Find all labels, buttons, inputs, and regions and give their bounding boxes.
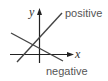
y-axis-arrow-icon — [37, 8, 42, 15]
negative-slope-line — [11, 33, 63, 61]
x-axis-label: x — [74, 47, 81, 61]
negative-line-label: negative — [46, 65, 88, 77]
positive-line-label: positive — [65, 7, 102, 19]
slope-diagram: y x positive negative — [0, 0, 108, 81]
x-axis-arrow-icon — [67, 52, 74, 57]
y-axis-label: y — [28, 5, 35, 19]
